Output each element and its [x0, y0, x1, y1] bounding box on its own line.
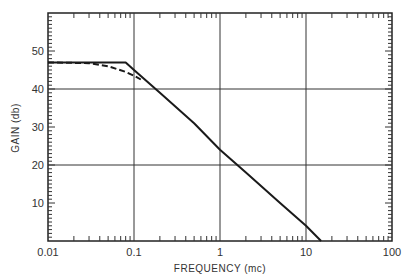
y-tick-label: 10 [32, 197, 44, 209]
x-axis-title: FREQUENCY (mc) [174, 263, 266, 274]
y-tick-labels: 10 20 30 40 50 [32, 45, 44, 209]
x-tick-label: 10 [300, 246, 312, 258]
y-tick-label: 30 [32, 121, 44, 133]
x-tick-label: 0.01 [37, 246, 58, 258]
y-tick-label: 40 [32, 83, 44, 95]
y-axis-title: GAIN (db) [10, 103, 21, 153]
y-tick-label: 50 [32, 45, 44, 57]
x-tick-label: 1 [217, 246, 223, 258]
x-tick-labels: 0.01 0.1 1 10 100 [37, 246, 401, 258]
x-tick-label: 100 [383, 246, 401, 258]
dashed-response-line [48, 62, 141, 79]
gain-frequency-chart: 0.01 0.1 1 10 100 10 20 30 40 50 FREQUEN… [0, 0, 412, 279]
gridlines [48, 13, 392, 241]
y-tick-label: 20 [32, 159, 44, 171]
x-tick-label: 0.1 [126, 246, 141, 258]
